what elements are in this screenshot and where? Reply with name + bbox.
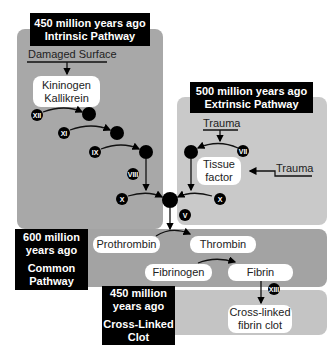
- factor-x-intrinsic-badge: X: [116, 193, 128, 205]
- factor-ix-badge: IX: [89, 146, 101, 158]
- factor-xi-badge: XI: [58, 127, 70, 139]
- pathway-arrows: XII XI IX VIII X VII X V XIII: [0, 0, 336, 352]
- factor-v-badge: V: [179, 209, 191, 221]
- activation-nodes: [82, 107, 198, 208]
- factor-xii-badge: XII: [31, 109, 43, 121]
- svg-text:X: X: [120, 196, 125, 203]
- svg-text:VII: VII: [239, 148, 248, 155]
- factor-xiii-badge: XIII: [268, 283, 280, 295]
- node-ixa: [139, 145, 153, 159]
- node-viia: [184, 145, 198, 159]
- svg-text:XII: XII: [33, 112, 42, 119]
- node-xa: [162, 192, 178, 208]
- svg-text:XI: XI: [61, 130, 68, 137]
- svg-text:X: X: [218, 196, 223, 203]
- svg-text:V: V: [183, 212, 188, 219]
- node-xiia: [82, 107, 96, 121]
- factor-vii-badge: VII: [237, 145, 249, 157]
- factor-x-extrinsic-badge: X: [214, 193, 226, 205]
- node-xia: [110, 126, 124, 140]
- svg-text:VIII: VIII: [128, 171, 139, 178]
- svg-text:XIII: XIII: [269, 286, 280, 293]
- factor-viii-badge: VIII: [127, 168, 139, 180]
- svg-text:IX: IX: [92, 149, 99, 156]
